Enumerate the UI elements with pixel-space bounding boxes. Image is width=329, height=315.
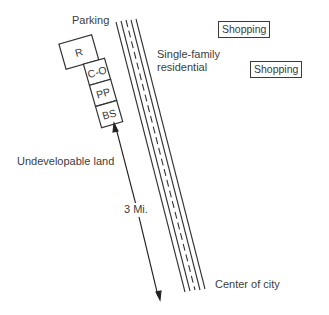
residential-label-line2: residential [157,61,207,74]
parking-label: Parking [72,14,109,27]
shopping-box-1: Shopping [218,21,270,38]
shopping-box-2: Shopping [250,61,302,78]
center-of-city-label: Center of city [215,278,280,291]
distance-label: 3 Mi. [124,203,148,216]
undevelopable-label: Undevelopable land [17,155,114,168]
residential-label-line1: Single-family [157,48,220,61]
